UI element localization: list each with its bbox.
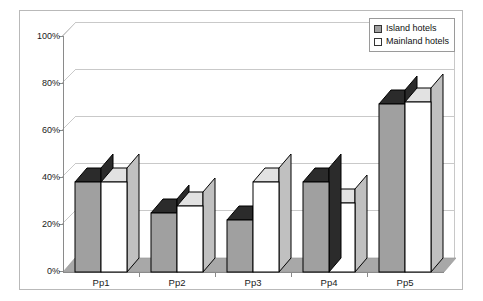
chart-container: 100% 80% 60% 40% 20% 0% [0, 0, 483, 301]
y-tick-label-60: 60% [20, 125, 60, 135]
bar-island-pp1 [75, 168, 101, 272]
bar-mainland-pp2 [177, 192, 203, 272]
y-tick-label-100: 100% [20, 31, 60, 41]
x-tick-mark-1 [139, 272, 140, 277]
bar-mainland-pp1 [101, 168, 127, 272]
legend-swatch-island-icon [374, 25, 382, 33]
legend-item-island-hotels: Island hotels [374, 22, 449, 35]
bar-island-pp4 [303, 168, 329, 272]
bar-island-pp2 [151, 199, 177, 272]
x-tick-label-pp5: Pp5 [375, 277, 435, 289]
gridline-80 [76, 69, 455, 70]
bar-mainland-pp3 [253, 168, 279, 272]
bar-island-pp5 [379, 90, 405, 272]
gridline-diag-60 [62, 115, 81, 131]
x-tick-label-pp3: Pp3 [223, 277, 283, 289]
bar-island-pp3 [227, 206, 253, 272]
legend-swatch-mainland-icon [374, 38, 382, 46]
chart-legend: Island hotels Mainland hotels [369, 18, 455, 52]
gridline-diag-100 [62, 21, 81, 37]
legend-item-mainland-hotels: Mainland hotels [374, 35, 449, 48]
x-tick-mark-3 [291, 272, 292, 277]
x-tick-label-pp4: Pp4 [299, 277, 359, 289]
y-tick-label-80: 80% [20, 78, 60, 88]
y-axis-labels: 100% 80% 60% 40% 20% 0% [16, 0, 60, 301]
legend-label-mainland-hotels: Mainland hotels [386, 36, 449, 47]
y-tick-label-40: 40% [20, 172, 60, 182]
x-tick-mark-2 [215, 272, 216, 277]
y-axis-line [63, 36, 64, 272]
x-tick-label-pp2: Pp2 [147, 277, 207, 289]
gridline-diag-80 [62, 68, 81, 84]
legend-label-island-hotels: Island hotels [386, 23, 437, 34]
y-tick-label-0: 0% [20, 266, 60, 276]
x-tick-mark-4 [367, 272, 368, 277]
x-tick-label-pp1: Pp1 [71, 277, 131, 289]
bar-mainland-pp5 [405, 88, 431, 272]
y-tick-label-20: 20% [20, 219, 60, 229]
